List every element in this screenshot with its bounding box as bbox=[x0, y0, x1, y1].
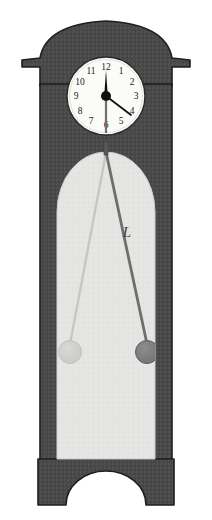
clock-numeral-1: 1 bbox=[119, 66, 124, 76]
grandfather-clock-illustration: L 12 1 2 3 4 5 6 7 8 9 10 11 bbox=[0, 0, 212, 520]
window-glass bbox=[57, 152, 155, 459]
clock-face: 12 1 2 3 4 5 6 7 8 9 10 11 bbox=[67, 57, 145, 135]
pendulum-pivot bbox=[104, 142, 108, 155]
clock-numeral-12: 12 bbox=[101, 62, 111, 72]
clock-numeral-10: 10 bbox=[75, 77, 85, 87]
pendulum-length-label: L bbox=[122, 224, 131, 240]
clock-numeral-7: 7 bbox=[89, 116, 94, 126]
clock-numeral-3: 3 bbox=[134, 91, 139, 101]
clock-numeral-11: 11 bbox=[86, 66, 95, 76]
clock-numeral-8: 8 bbox=[78, 106, 83, 116]
clock-numeral-5: 5 bbox=[119, 116, 124, 126]
pendulum-ghost-bob bbox=[59, 341, 82, 364]
case-base bbox=[38, 459, 174, 505]
clock-numeral-9: 9 bbox=[74, 91, 79, 101]
clock-hand-hub bbox=[101, 91, 111, 101]
pendulum-window bbox=[57, 152, 155, 459]
clock-numeral-2: 2 bbox=[130, 77, 135, 87]
clock-figure: L 12 1 2 3 4 5 6 7 8 9 10 11 bbox=[0, 0, 212, 520]
